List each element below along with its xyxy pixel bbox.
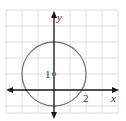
coordinate-plane: y x 2 1 [0,0,126,121]
center-point [52,72,57,77]
x-tick-label-2: 2 [83,92,89,104]
y-axis [51,11,57,119]
y-axis-down-arrow-icon [51,112,57,119]
x-axis-left-arrow-icon [6,87,13,93]
x-axis-label: x [110,92,116,104]
y-tick-label-1: 1 [45,68,51,80]
y-axis-label: y [56,11,62,23]
grid [6,10,118,113]
